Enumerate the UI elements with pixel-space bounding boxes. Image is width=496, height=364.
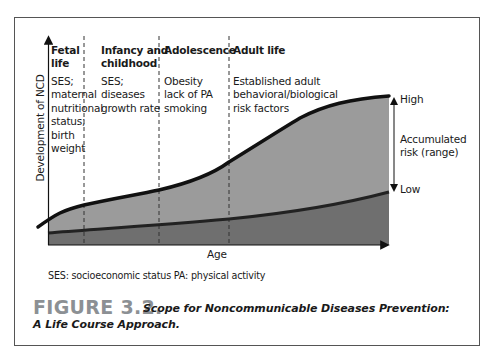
- factor-line: weight: [51, 142, 103, 155]
- stage-heading-fetal: Fetal life: [51, 44, 80, 71]
- heading-line: Adult life: [233, 44, 285, 57]
- stage-heading-adolescence: Adolescence: [164, 44, 236, 57]
- high-label: High: [400, 93, 423, 106]
- x-axis-label: Age: [207, 248, 227, 261]
- heading-line: Fetal: [51, 44, 80, 57]
- stage-factors-fetal: SES; maternal nutritional status; birth …: [51, 75, 103, 155]
- factor-line: behavioral/biological: [233, 88, 338, 101]
- stage-factors-infancy: SES; diseases growth rate: [101, 75, 160, 115]
- factor-line: SES;: [51, 75, 103, 88]
- factor-line: risk factors: [233, 102, 338, 115]
- factor-line: birth: [51, 129, 103, 142]
- footnote: SES: socioeconomic status PA: physical a…: [48, 270, 265, 281]
- factor-line: lack of PA: [164, 88, 213, 101]
- factor-line: SES;: [101, 75, 160, 88]
- y-axis-label: Development of NCD: [34, 74, 46, 181]
- heading-line: life: [51, 57, 80, 70]
- factor-line: maternal: [51, 88, 103, 101]
- figure-title: Scope for Noncommunicable Diseases Preve…: [143, 302, 450, 315]
- low-label: Low: [400, 183, 420, 196]
- factor-line: nutritional: [51, 102, 103, 115]
- label-line: risk (range): [400, 146, 466, 159]
- factor-line: growth rate: [101, 102, 160, 115]
- stage-factors-adult: Established adult behavioral/biological …: [233, 75, 338, 115]
- label-line: Accumulated: [400, 133, 466, 146]
- factor-line: status;: [51, 115, 103, 128]
- stage-heading-adult: Adult life: [233, 44, 285, 57]
- stage-factors-adolescence: Obesity lack of PA smoking: [164, 75, 213, 115]
- heading-line: Infancy and: [101, 44, 168, 57]
- stage-heading-infancy: Infancy and childhood: [101, 44, 168, 71]
- factor-line: Obesity: [164, 75, 213, 88]
- heading-line: childhood: [101, 57, 168, 70]
- factor-line: Established adult: [233, 75, 338, 88]
- heading-line: Adolescence: [164, 44, 236, 57]
- factor-line: smoking: [164, 102, 213, 115]
- accumulated-risk-label: Accumulated risk (range): [400, 133, 466, 160]
- factor-line: diseases: [101, 88, 160, 101]
- figure-title-continued: A Life Course Approach.: [33, 318, 180, 331]
